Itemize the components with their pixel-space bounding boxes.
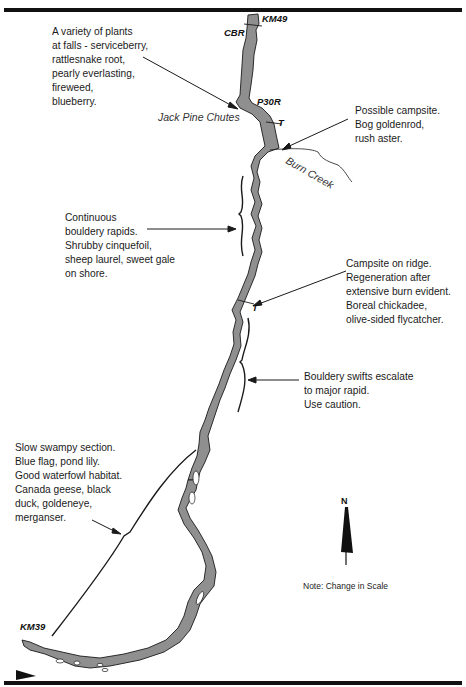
place-jack-pine-chutes: Jack Pine Chutes bbox=[158, 111, 240, 123]
annotation-falls-plants: A variety of plants at falls - servicebe… bbox=[52, 24, 148, 108]
north-label: N bbox=[341, 496, 348, 506]
marker-cbr: CBR bbox=[224, 27, 245, 38]
annotation-bouldery-swifts: Bouldery swifts escalate to major rapid.… bbox=[304, 369, 413, 411]
annotation-swampy-section: Slow swampy section. Blue flag, pond lil… bbox=[15, 440, 122, 524]
annotation-possible-campsite: Possible campsite. Bog goldenrod, rush a… bbox=[355, 103, 440, 145]
rapids-bracket-upper bbox=[239, 176, 243, 256]
marker-p30r: P30R bbox=[257, 96, 281, 107]
river-channel-upper bbox=[188, 14, 279, 480]
marker-trail-2: T bbox=[252, 302, 258, 313]
marker-trail-1: T bbox=[278, 117, 284, 128]
north-arrow-icon bbox=[341, 507, 353, 565]
scale-note: Note: Change in Scale bbox=[303, 581, 388, 591]
marker-km49: KM49 bbox=[262, 13, 287, 24]
marker-km39: KM39 bbox=[20, 621, 45, 632]
annotation-campsite-ridge: Campsite on ridge. Regeneration after ex… bbox=[346, 256, 451, 326]
direction-pointer-icon bbox=[16, 670, 36, 680]
annotation-bouldery-rapids: Continuous bouldery rapids. Shrubby cinq… bbox=[65, 210, 175, 280]
